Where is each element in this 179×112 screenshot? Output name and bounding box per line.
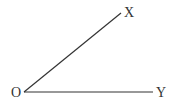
- angle-diagram: O X Y: [0, 0, 179, 112]
- ray-ox: [24, 13, 121, 92]
- point-label-y: Y: [156, 85, 166, 100]
- vertex-label-o: O: [11, 85, 21, 100]
- point-label-x: X: [124, 5, 134, 20]
